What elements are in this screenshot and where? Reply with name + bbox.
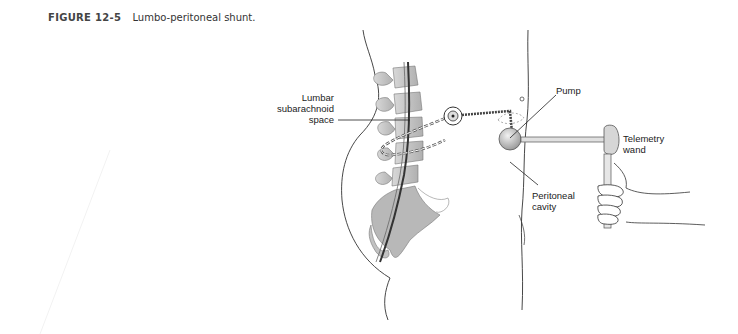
abdomen-contour: [521, 30, 528, 310]
lumbar-subarachnoid-label: Lumbar subarachnoid space: [262, 92, 334, 125]
peritoneal-cavity-label: Peritoneal cavity: [532, 190, 575, 212]
faint-guide-line: [40, 150, 110, 334]
wand-rod: [521, 137, 607, 142]
navel: [520, 97, 524, 101]
telemetry-wand-label: Telemetry wand: [623, 133, 664, 155]
lumbar-vertebrae: [374, 66, 423, 186]
wand-head: [604, 125, 619, 154]
hand: [598, 163, 705, 225]
pump-label: Pump: [556, 85, 581, 96]
pump-leader: [510, 95, 556, 138]
pump-catheter: [462, 111, 512, 132]
lumbo-peritoneal-shunt-illustration: [0, 0, 738, 334]
